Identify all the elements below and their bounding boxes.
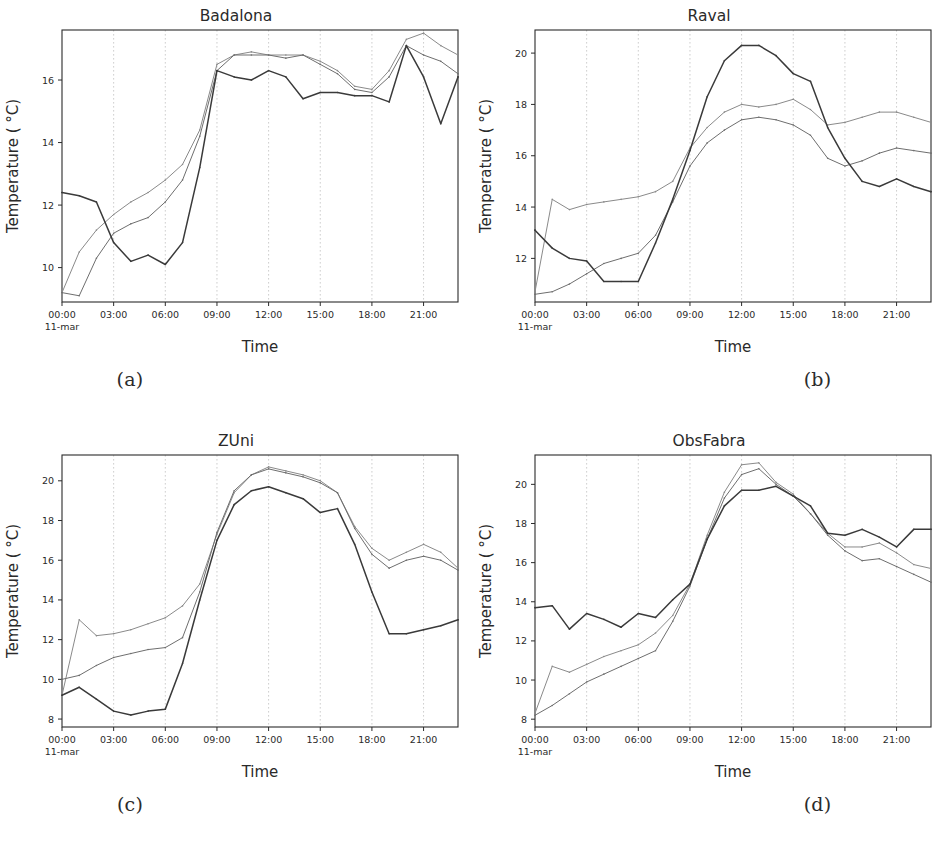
y-axis-label: Temperature ( °C) xyxy=(4,99,22,234)
series-marker xyxy=(930,152,932,154)
chart-svg: ZUni810121416182000:0003:0006:0009:0012:… xyxy=(0,425,472,785)
series-line-model-1 xyxy=(535,469,931,716)
series-marker xyxy=(723,111,725,113)
y-axis-label: Temperature ( °C) xyxy=(4,524,22,659)
series-marker xyxy=(568,283,570,285)
series-marker xyxy=(620,281,622,283)
series-marker xyxy=(654,242,656,244)
series-marker xyxy=(406,559,408,561)
y-tick-label: 12 xyxy=(42,634,54,645)
series-marker xyxy=(654,632,656,634)
subfigure-a: Badalona1012141600:0003:0006:0009:0012:0… xyxy=(0,0,472,425)
series-marker xyxy=(637,644,639,646)
series-marker xyxy=(740,104,742,106)
series-marker xyxy=(130,629,132,631)
series-marker xyxy=(406,633,408,635)
chart-svg: Raval121416182000:0003:0006:0009:0012:00… xyxy=(473,0,945,360)
series-marker xyxy=(878,186,880,188)
y-tick-label: 14 xyxy=(42,137,54,148)
x-tick-label: 03:00 xyxy=(572,734,599,745)
y-tick-label: 12 xyxy=(514,253,526,264)
series-marker xyxy=(113,710,115,712)
series-marker xyxy=(96,698,98,700)
series-marker xyxy=(534,713,536,715)
series-marker xyxy=(268,70,270,72)
series-marker xyxy=(620,666,622,668)
series-marker xyxy=(568,693,570,695)
series-line-observed xyxy=(62,487,458,715)
series-marker xyxy=(182,164,184,166)
series-marker xyxy=(775,486,777,488)
series-marker xyxy=(319,60,321,62)
series-marker xyxy=(251,490,253,492)
y-tick-label: 8 xyxy=(48,714,54,725)
series-marker xyxy=(147,649,149,651)
series-marker xyxy=(585,273,587,275)
series-marker xyxy=(302,98,304,100)
x-tick-label: 09:00 xyxy=(203,734,230,745)
x-tick-label: 21:00 xyxy=(410,734,437,745)
subfigure-caption-a: (a) xyxy=(117,368,144,390)
x-tick-label: 03:00 xyxy=(100,734,127,745)
series-marker xyxy=(199,591,201,593)
series-marker xyxy=(930,122,932,124)
series-marker xyxy=(758,116,760,118)
series-marker xyxy=(912,529,914,531)
series-marker xyxy=(423,54,425,56)
x-axis: 00:0003:0006:0009:0012:0015:0018:0021:00… xyxy=(517,727,910,757)
x-tick-label: 21:00 xyxy=(882,309,909,320)
series-marker xyxy=(585,664,587,666)
x-tick-label: 21:00 xyxy=(410,309,437,320)
series-marker xyxy=(147,623,149,625)
series-marker xyxy=(844,550,846,552)
chart-svg: Badalona1012141600:0003:0006:0009:0012:0… xyxy=(0,0,472,360)
series-line-observed xyxy=(535,45,931,281)
series-marker xyxy=(775,484,777,486)
series-marker xyxy=(723,129,725,131)
series-line-model-2 xyxy=(62,467,458,695)
series-marker xyxy=(285,492,287,494)
series-marker xyxy=(354,95,356,97)
series-marker xyxy=(96,229,98,231)
series-line-model-1 xyxy=(62,46,458,296)
series-marker xyxy=(706,127,708,129)
series-marker xyxy=(758,462,760,464)
y-tick-label: 16 xyxy=(42,75,54,86)
series-line-observed xyxy=(62,46,458,265)
series-marker xyxy=(457,569,459,571)
series-marker xyxy=(740,474,742,476)
series-marker xyxy=(740,464,742,466)
series-marker xyxy=(457,567,459,569)
y-tick-label: 8 xyxy=(520,714,526,725)
series-marker xyxy=(371,553,373,555)
series-marker xyxy=(354,89,356,91)
series-marker xyxy=(233,54,235,56)
series-marker xyxy=(637,252,639,254)
series-marker xyxy=(337,70,339,72)
series-marker xyxy=(130,714,132,716)
y-axis-label: Temperature ( °C) xyxy=(477,524,495,659)
y-tick-label: 12 xyxy=(514,635,526,646)
x-axis: 00:0003:0006:0009:0012:0015:0018:0021:00… xyxy=(517,302,910,332)
series-marker xyxy=(551,666,553,668)
subfigure-d: ObsFabra810121416182000:0003:0006:0009:0… xyxy=(472,425,945,851)
series-marker xyxy=(302,498,304,500)
series-marker xyxy=(689,150,691,152)
y-axis-label: Temperature ( °C) xyxy=(477,99,495,234)
series-marker xyxy=(199,129,201,131)
series-marker xyxy=(654,191,656,193)
series-marker xyxy=(603,656,605,658)
series-marker xyxy=(603,281,605,283)
series-marker xyxy=(337,92,339,94)
x-axis: 00:0003:0006:0009:0012:0015:0018:0021:00… xyxy=(45,727,438,757)
series-marker xyxy=(319,480,321,482)
x-axis: 00:0003:0006:0009:0012:0015:0018:0021:00… xyxy=(45,302,438,332)
series-marker xyxy=(216,540,218,542)
x-tick-label: 00:00 xyxy=(48,309,75,320)
x-tick-label: 12:00 xyxy=(255,309,282,320)
series-marker xyxy=(758,106,760,108)
x-tick-label: 03:00 xyxy=(100,309,127,320)
series-marker xyxy=(861,181,863,183)
subfigure-b: Raval121416182000:0003:0006:0009:0012:00… xyxy=(472,0,945,425)
series-marker xyxy=(706,142,708,144)
